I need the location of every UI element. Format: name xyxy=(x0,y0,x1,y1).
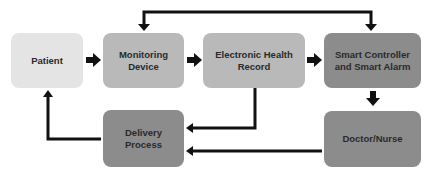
node-label-line-2: and Smart Alarm xyxy=(335,61,411,73)
node-patient: Patient xyxy=(11,33,83,88)
node-delivery-process: Delivery Process xyxy=(103,110,184,167)
arrow-delivery-to-patient xyxy=(43,90,101,139)
arrow-patient-to-monitoring xyxy=(86,53,101,67)
node-label-line-1: Electronic Health xyxy=(215,49,293,61)
node-doctor-nurse: Doctor/Nurse xyxy=(324,111,421,167)
node-label: Doctor/Nurse xyxy=(342,133,402,145)
arrow-smart-controller-to-doctor xyxy=(366,91,380,106)
node-label-line-1: Monitoring xyxy=(119,49,168,61)
node-label-line-1: Smart Controller xyxy=(335,49,411,61)
arrow-doctor-to-delivery xyxy=(186,146,322,156)
flow-diagram: Patient Monitoring Device Electronic Hea… xyxy=(0,0,431,176)
node-electronic-health-record: Electronic Health Record xyxy=(203,33,305,88)
node-label: Patient xyxy=(31,55,63,67)
node-label-line-2: Process xyxy=(125,139,162,151)
node-monitoring-device: Monitoring Device xyxy=(103,33,184,88)
node-smart-controller: Smart Controller and Smart Alarm xyxy=(324,33,421,88)
arrow-ehr-to-smart-controller xyxy=(307,53,322,67)
node-label-line-2: Device xyxy=(119,61,168,73)
arrow-ehr-to-delivery xyxy=(186,88,255,133)
arrow-monitoring-to-ehr xyxy=(187,53,202,67)
arrow-top-loop xyxy=(138,12,377,31)
node-label-line-2: Record xyxy=(215,61,293,73)
node-label-line-1: Delivery xyxy=(125,127,162,139)
